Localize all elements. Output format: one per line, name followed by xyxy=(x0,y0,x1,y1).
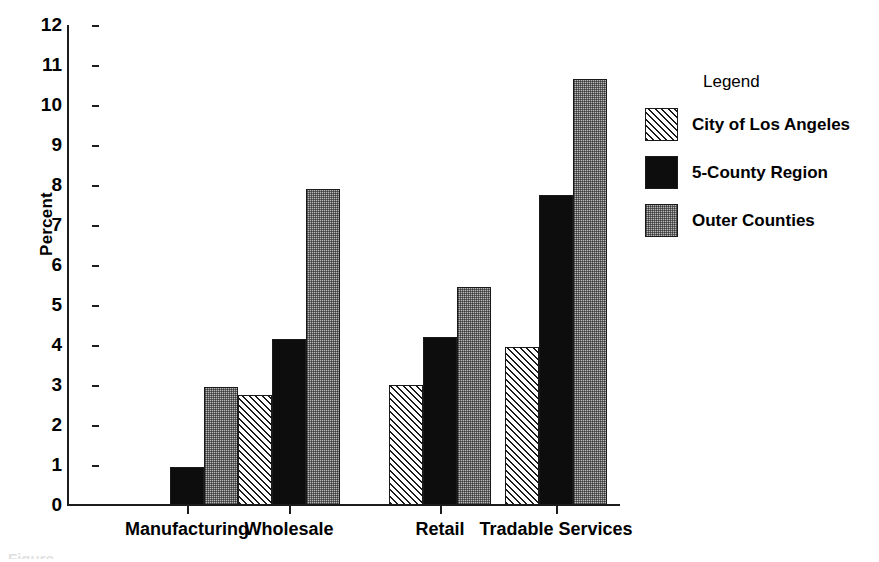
bar xyxy=(170,467,204,505)
legend-item-outer-counties: Outer Counties xyxy=(645,204,875,237)
legend-swatch-solid-icon xyxy=(645,156,678,189)
x-axis-category-label: Tradable Services xyxy=(446,519,666,540)
legend-item-label: Outer Counties xyxy=(692,211,815,231)
legend-item-5-county-region: 5-County Region xyxy=(645,156,875,189)
x-axis-tick-mark xyxy=(289,505,291,514)
bar xyxy=(505,347,539,505)
x-axis-tick-mark xyxy=(440,505,442,514)
x-axis-tick-mark xyxy=(187,505,189,514)
bar xyxy=(573,79,607,505)
bar xyxy=(204,387,238,505)
caption-remnant: Figure xyxy=(8,551,54,559)
legend-item-label: 5-County Region xyxy=(692,163,828,183)
bar xyxy=(306,189,340,505)
x-axis-tick-mark xyxy=(556,505,558,514)
legend-swatch-hatch-icon xyxy=(645,108,678,141)
legend-swatch-stipple-icon xyxy=(645,204,678,237)
legend-item-label: City of Los Angeles xyxy=(692,115,850,135)
bar xyxy=(539,195,573,505)
chart-figure: Percent 0123456789101112 ManufacturingWh… xyxy=(0,0,879,562)
bar xyxy=(238,395,272,505)
legend-title: Legend xyxy=(703,72,875,92)
legend-item-city-of-los-angeles: City of Los Angeles xyxy=(645,108,875,141)
bar xyxy=(457,287,491,505)
bar xyxy=(272,339,306,505)
bar xyxy=(389,385,423,505)
legend: Legend City of Los Angeles 5-County Regi… xyxy=(645,72,875,252)
bar xyxy=(423,337,457,505)
